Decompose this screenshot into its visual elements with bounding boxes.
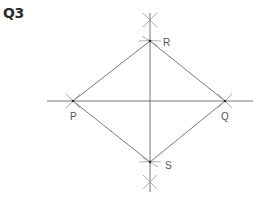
label-p: P <box>70 111 77 122</box>
point-s-dot <box>149 161 151 163</box>
label-s: S <box>165 160 172 171</box>
side-qs <box>150 101 225 162</box>
label-r: R <box>163 37 170 48</box>
side-pr <box>73 41 150 101</box>
point-r-dot <box>149 40 151 42</box>
side-rq <box>150 41 225 101</box>
label-q: Q <box>221 111 229 122</box>
point-p-dot <box>72 100 74 102</box>
side-sp <box>73 101 150 162</box>
point-q-dot <box>224 100 226 102</box>
rhombus-construction-diagram: R P Q S <box>0 0 265 201</box>
